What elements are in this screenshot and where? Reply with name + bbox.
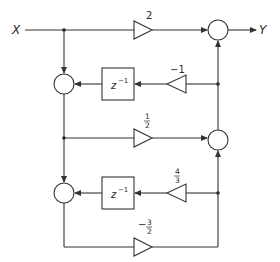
gain-2-label: 2 [146,10,152,21]
gain-four-thirds-triangle [167,184,186,202]
gain-neg1-label: −1 [170,64,185,75]
block-diagram: X 2 Y z −1 −1 1 2 z −1 [0,0,280,262]
gain-neg-three-halves-numerator: 3 [147,218,152,227]
right-summer-middle [208,130,228,150]
output-label: Y [259,23,268,37]
gain-half-numerator: 1 [145,112,150,121]
gain-neg-three-halves-label: − 3 2 [138,218,152,236]
gain-half-label: 1 2 [144,112,150,130]
gain-four-thirds-denominator: 3 [175,176,180,185]
left-summer-1 [54,74,74,94]
gain-neg-three-halves-triangle [134,238,152,256]
left-summer-2 [54,183,74,203]
gain-neg1-triangle [167,75,186,93]
delay-2-exponent: −1 [118,186,128,194]
gain-four-thirds-numerator: 4 [175,167,180,176]
gain-half-triangle [134,129,152,147]
input-label: X [11,23,21,37]
gain-neg-three-halves-denominator: 2 [147,227,152,236]
gain-half-denominator: 2 [145,121,150,130]
gain-2-triangle [134,21,152,39]
delay-2-base: z [110,189,117,200]
gain-neg-three-halves-sign: − [138,219,146,230]
right-summer-top [208,20,228,40]
delay-1-exponent: −1 [118,77,128,85]
delay-1-base: z [110,80,117,91]
gain-four-thirds-label: 4 3 [174,167,180,185]
